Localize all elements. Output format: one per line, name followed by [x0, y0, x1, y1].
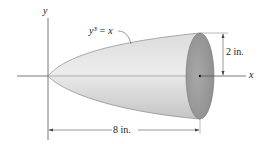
- length-arrow-right: [195, 129, 200, 132]
- radius-arrow-top: [222, 34, 225, 39]
- curve-label-leader: [118, 31, 131, 44]
- solid-of-revolution-diagram: [0, 0, 268, 144]
- x-axis-label: x: [249, 70, 253, 80]
- y-axis-label: y: [43, 6, 47, 16]
- curve-equation-label: y³ = x: [89, 26, 113, 36]
- length-arrow-left: [49, 129, 54, 132]
- length-dimension-label: 8 in.: [113, 125, 131, 135]
- radius-dimension-label: 2 in.: [226, 47, 244, 57]
- radius-arrow-bottom: [222, 71, 225, 76]
